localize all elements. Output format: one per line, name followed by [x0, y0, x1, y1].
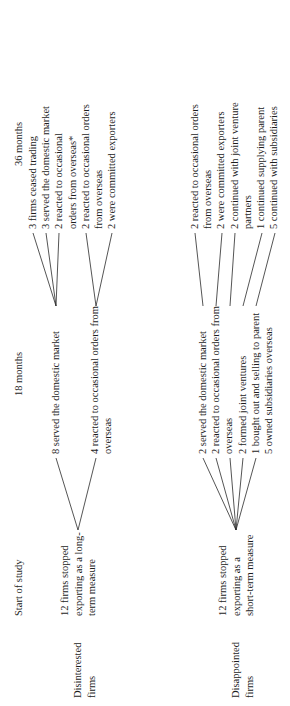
- link-disappointed-m18-1: [195, 233, 203, 306]
- leaf-disappointed-m36-2: 2 were committed exporters: [214, 102, 227, 229]
- node-disappointed-start-line1: 12 firms stopped: [216, 535, 230, 616]
- node-disinterested-start-line3: term measure: [85, 532, 99, 616]
- group-label-disinterested-line1: Disinterested: [72, 643, 83, 698]
- leaf-disinterested-m36-4: 2 reacted to occasional orders: [79, 104, 92, 229]
- leaf-disinterested-m36-2: 3 served the domestic market: [39, 104, 52, 229]
- leaf-disappointed-m18-1: 2 served the domestic market: [196, 306, 209, 454]
- link-disinterested-m18-1: [33, 233, 56, 306]
- diagram-rotation-wrapper: Start of study 18 months 36 months Disap…: [0, 0, 290, 706]
- link-disappointed-start-4: [236, 458, 243, 530]
- leaf-disappointed-m36-3: 2 continued with joint venture: [228, 102, 241, 229]
- leaf-disappointed-m18-3: 2 formed joint ventures: [236, 306, 249, 454]
- list-disinterested-18-months: 8 served the domestic market 4 reacted t…: [49, 306, 115, 454]
- list-disappointed-18-months: 2 served the domestic market 2 reacted t…: [196, 306, 275, 454]
- leaf-disappointed-m36-1: 2 reacted to occasional orders: [188, 102, 201, 229]
- node-disappointed-start-line2: exporting as a: [230, 535, 244, 616]
- leaf-disappointed-m36-4: 1 continued supplying parent: [254, 102, 267, 229]
- leaf-disinterested-m36-3: 2 reacted to occasional: [52, 104, 65, 229]
- leaf-disinterested-m36-4-cont: from overseas: [93, 170, 104, 229]
- group-label-disappointed-line1: Disappointed: [230, 642, 241, 698]
- group-label-disappointed-line2: firms: [243, 642, 257, 698]
- leaf-disappointed-m36-5: 5 continued with subsidiaries: [267, 102, 280, 229]
- node-disinterested-start-line2: exporting as a long-: [72, 532, 86, 616]
- column-header-36-months: 36 months: [12, 122, 25, 166]
- link-disinterested-m18-5: [96, 233, 112, 306]
- leaf-disappointed-m36-3-cont: partners: [242, 195, 253, 229]
- node-disinterested-start-line1: 12 firms stopped: [58, 532, 72, 616]
- leaf-disinterested-m36-1: 3 firms ceased trading: [26, 104, 39, 229]
- leaf-disinterested-m36-5: 2 were committed exporters: [105, 104, 118, 229]
- list-disappointed-36-months: 2 reacted to occasional orders from over…: [188, 102, 280, 229]
- link-disappointed-m18-2: [216, 233, 222, 306]
- column-header-start-of-study: Start of study: [12, 559, 25, 616]
- group-label-disappointed-firms: Disappointed firms: [229, 642, 256, 698]
- node-disappointed-start: 12 firms stopped exporting as a short-te…: [216, 535, 257, 616]
- list-disinterested-36-months: 3 firms ceased trading 3 served the dome…: [26, 104, 118, 229]
- link-disinterested-m18-3: [56, 233, 59, 306]
- leaf-disappointed-m18-2-cont: overseas: [223, 418, 234, 454]
- link-disinterested-m18-2: [46, 233, 56, 306]
- group-label-disinterested-firms: Disinterested firms: [71, 643, 98, 698]
- leaf-disinterested-m18-1: 8 served the domestic market: [49, 306, 62, 454]
- leaf-disappointed-m18-5: 5 owned subsidiaries overseas: [262, 306, 275, 454]
- column-header-18-months: 18 months: [12, 352, 25, 396]
- leaf-disinterested-m18-2-cont: overseas: [102, 418, 113, 454]
- leaf-disinterested-m36-3-cont: orders from overseas*: [67, 136, 78, 229]
- node-disappointed-start-line3: short-term measure: [243, 535, 257, 616]
- group-label-disinterested-line2: firms: [85, 643, 99, 698]
- leaf-disinterested-m18-2: 4 reacted to occasional orders from: [88, 306, 101, 454]
- diagram-canvas: Start of study 18 months 36 months Disap…: [0, 0, 290, 706]
- node-disinterested-start: 12 firms stopped exporting as a long- te…: [58, 532, 99, 616]
- link-disappointed-m18-3: [230, 233, 235, 306]
- leaf-disappointed-m36-1-cont: from overseas: [202, 170, 213, 229]
- link-disappointed-start-5: [236, 458, 256, 530]
- link-disinterested-start-2: [78, 458, 96, 530]
- link-disinterested-m18-4: [86, 233, 96, 306]
- leaf-disappointed-m18-2: 2 reacted to occasional orders from: [209, 306, 222, 454]
- leaf-disappointed-m18-4: 1 bought out and selling to parent: [249, 306, 262, 454]
- link-disinterested-start-1: [56, 458, 78, 530]
